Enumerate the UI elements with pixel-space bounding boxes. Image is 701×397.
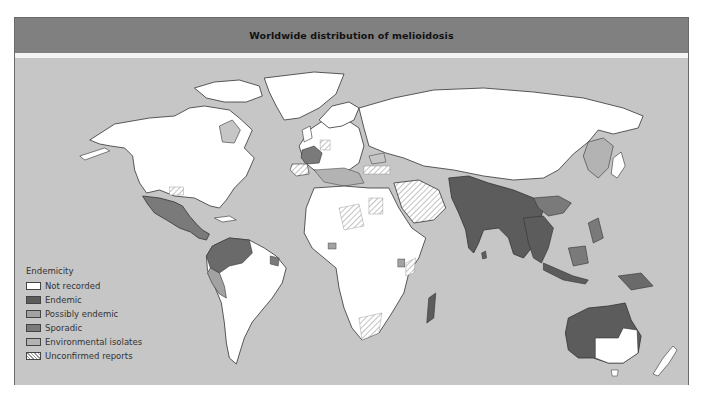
figure-title: Worldwide distribution of melioidosis [249, 30, 453, 41]
legend-item-not-recorded: Not recorded [26, 279, 142, 293]
region-east-africa [398, 259, 405, 267]
swatch-environmental-isolates [26, 338, 41, 346]
legend: Endemicity Not recorded Endemic Possibly… [26, 266, 142, 363]
swatch-not-recorded [26, 282, 41, 290]
map-figure: Worldwide distribution of melioidosis [14, 17, 689, 385]
legend-label: Endemic [45, 295, 82, 305]
legend-label: Sporadic [45, 323, 82, 333]
legend-label: Environmental isolates [45, 337, 142, 347]
region-egypt [369, 198, 383, 214]
legend-item-possibly-endemic: Possibly endemic [26, 307, 142, 321]
legend-item-unconfirmed-reports: Unconfirmed reports [26, 349, 142, 363]
swatch-possibly-endemic [26, 310, 41, 318]
legend-label: Possibly endemic [45, 309, 118, 319]
legend-title: Endemicity [26, 266, 142, 276]
swatch-sporadic [26, 324, 41, 332]
region-turkey [364, 166, 390, 174]
region-ne-brazil [270, 256, 279, 266]
region-us-southwest-unconfirmed [170, 187, 184, 195]
region-germany [320, 140, 330, 150]
legend-item-endemic: Endemic [26, 293, 142, 307]
legend-item-sporadic: Sporadic [26, 321, 142, 335]
swatch-unconfirmed-reports [26, 352, 41, 360]
legend-item-environmental-isolates: Environmental isolates [26, 335, 142, 349]
figure-header: Worldwide distribution of melioidosis [15, 18, 688, 53]
region-tasmania [611, 370, 618, 376]
legend-label: Not recorded [45, 281, 100, 291]
legend-label: Unconfirmed reports [45, 351, 133, 361]
region-west-africa [328, 243, 336, 249]
swatch-endemic [26, 296, 41, 304]
